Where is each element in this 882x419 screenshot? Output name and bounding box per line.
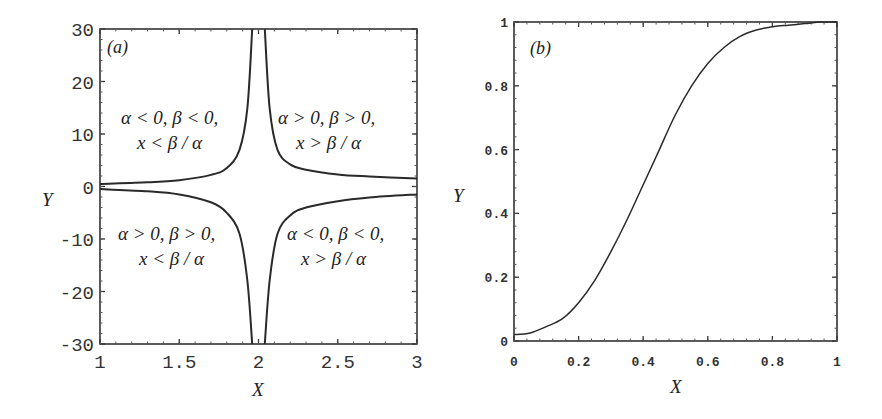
y-tick-label: 20 <box>71 73 94 95</box>
annotation-lower-left: α > 0, β > 0, x < β / α <box>118 223 215 269</box>
x-tick-label: 2 <box>253 352 264 374</box>
panel-a: 11.522.533020100-10-20-30 (a) X Y α < 0,… <box>42 20 423 400</box>
panel-b-ylabel: Y <box>453 185 466 206</box>
x-tick-label: 0.8 <box>761 355 785 370</box>
x-tick-label: 0.2 <box>567 355 591 370</box>
y-tick-label: 30 <box>71 20 94 42</box>
panel-a-curves <box>100 29 417 344</box>
svg-text:α > 0, β > 0,: α > 0, β > 0, <box>278 107 375 128</box>
x-tick-label: 1.5 <box>162 352 196 374</box>
svg-text:x < β / α: x < β / α <box>136 132 203 153</box>
figure: 11.522.533020100-10-20-30 (a) X Y α < 0,… <box>0 0 882 419</box>
svg-text:α < 0, β < 0,: α < 0, β < 0, <box>287 223 384 244</box>
svg-text:x > β / α: x > β / α <box>300 248 367 269</box>
y-tick-label: -30 <box>60 335 94 357</box>
y-tick-label: 0.6 <box>485 144 509 159</box>
x-tick-label: 0 <box>510 355 518 370</box>
panel-b: 00.20.40.60.8110.80.60.40.20 (b) X Y <box>453 16 841 397</box>
curve <box>514 22 837 335</box>
panel-b-curves <box>514 22 837 335</box>
svg-text:x > β / α: x > β / α <box>295 132 362 153</box>
panel-a-ylabel: Y <box>42 189 55 210</box>
annotation-upper-right: α > 0, β > 0, x > β / α <box>278 107 375 153</box>
y-tick-label: 0 <box>500 335 508 350</box>
svg-text:x < β / α: x < β / α <box>138 248 205 269</box>
y-tick-label: -10 <box>60 230 94 252</box>
x-tick-label: 2.5 <box>321 352 355 374</box>
x-tick-label: 0.6 <box>696 355 720 370</box>
y-tick-label: -20 <box>60 283 94 305</box>
x-tick-label: 1 <box>94 352 105 374</box>
x-tick-label: 0.4 <box>631 355 655 370</box>
svg-text:α > 0, β > 0,: α > 0, β > 0, <box>118 223 215 244</box>
y-tick-label: 1 <box>500 16 508 31</box>
panel-b-xlabel: X <box>669 376 683 397</box>
panel-a-xlabel: X <box>251 379 265 400</box>
curve <box>265 194 417 344</box>
svg-text:α < 0, β < 0,: α < 0, β < 0, <box>121 107 218 128</box>
y-tick-label: 0.2 <box>485 271 509 286</box>
panel-b-frame <box>514 22 837 341</box>
annotation-lower-right: α < 0, β < 0, x > β / α <box>287 223 384 269</box>
curve <box>265 29 417 179</box>
annotation-upper-left: α < 0, β < 0, x < β / α <box>121 107 218 153</box>
y-tick-label: 10 <box>71 125 94 147</box>
panel-a-label: (a) <box>107 37 128 58</box>
y-tick-label: 0.8 <box>485 80 509 95</box>
y-tick-label: 0.4 <box>485 207 509 222</box>
panel-b-label: (b) <box>530 38 551 59</box>
x-tick-label: 3 <box>411 352 422 374</box>
y-tick-label: 0 <box>83 178 94 200</box>
panel-b-ticks: 00.20.40.60.8110.80.60.40.20 <box>485 16 842 370</box>
panel-a-frame <box>100 29 417 344</box>
x-tick-label: 1 <box>833 355 841 370</box>
